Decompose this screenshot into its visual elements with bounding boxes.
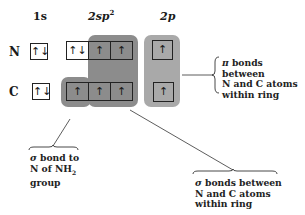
- pi-bonds-label: π bonds between N and C atoms within rin…: [222, 58, 305, 100]
- sigma-ring-label: σ bonds between N and C atoms within rin…: [195, 178, 282, 210]
- sigma-nh2-label: σ bond to N of NH2 group: [30, 153, 79, 188]
